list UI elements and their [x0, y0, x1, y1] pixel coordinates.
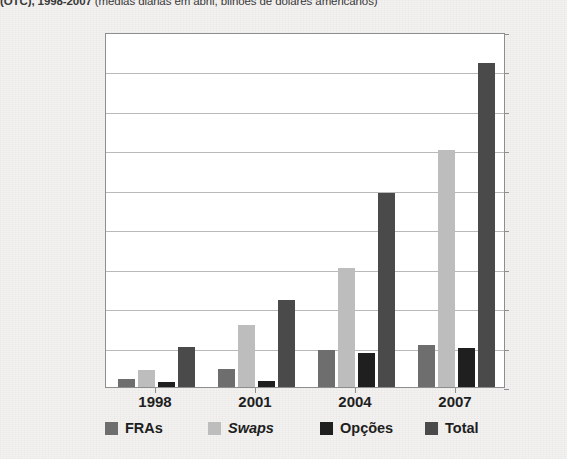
bar-total-2007	[478, 63, 495, 387]
y-axis-tick	[504, 152, 509, 153]
gridline	[106, 73, 504, 74]
chart-title-main: (OTC), 1998-2007	[0, 0, 92, 7]
legend-swatch-icon	[320, 422, 333, 435]
bar-total-1998	[178, 347, 195, 387]
legend-swatch-icon	[208, 422, 221, 435]
bar-swaps-2001	[238, 325, 255, 387]
legend-item-fras[interactable]: FRAs	[105, 420, 163, 436]
bar-fras-2004	[318, 350, 335, 387]
legend-label: Swaps	[228, 420, 274, 436]
bar-op-es-2007	[458, 348, 475, 387]
bar-fras-2007	[418, 345, 435, 387]
plot-area	[105, 33, 505, 388]
bar-swaps-1998	[138, 370, 155, 387]
legend-item-swaps[interactable]: Swaps	[208, 420, 274, 436]
chart-legend: FRAsSwapsOpçõesTotal	[105, 420, 505, 446]
bar-swaps-2004	[338, 268, 355, 387]
legend-swatch-icon	[425, 422, 438, 435]
y-axis-tick	[504, 192, 509, 193]
legend-label: Total	[445, 420, 479, 436]
legend-label: Opções	[340, 420, 393, 436]
bar-fras-1998	[118, 379, 135, 387]
x-axis-label-1998: 1998	[138, 393, 171, 410]
x-axis-label-2007: 2007	[438, 393, 471, 410]
bar-total-2001	[278, 300, 295, 387]
y-axis-tick	[504, 34, 509, 35]
y-axis-tick	[504, 310, 509, 311]
x-axis-label-2004: 2004	[338, 393, 371, 410]
legend-item-op-es[interactable]: Opções	[320, 420, 393, 436]
legend-swatch-icon	[105, 422, 118, 435]
scanned-page: (OTC), 1998-2007 (médias diárias em abri…	[0, 0, 567, 459]
y-axis-tick	[504, 271, 509, 272]
chart-title-subtitle: (médias diárias em abril, bilhões de dól…	[95, 0, 378, 7]
chart-title-strip: (OTC), 1998-2007 (médias diárias em abri…	[0, 0, 567, 11]
y-axis-tick	[504, 350, 509, 351]
y-axis-tick	[504, 113, 509, 114]
legend-item-total[interactable]: Total	[425, 420, 479, 436]
x-axis-label-2001: 2001	[238, 393, 271, 410]
bar-op-es-1998	[158, 382, 175, 387]
bar-chart: US$0US$200US$400US$600US$800US$1.000US$1…	[0, 16, 567, 459]
chart-title: (OTC), 1998-2007 (médias diárias em abri…	[0, 0, 567, 11]
bar-fras-2001	[218, 369, 235, 387]
gridline	[106, 113, 504, 114]
bar-swaps-2007	[438, 150, 455, 387]
bar-op-es-2001	[258, 381, 275, 387]
bar-op-es-2004	[358, 353, 375, 387]
bar-total-2004	[378, 193, 395, 387]
y-axis-tick	[504, 231, 509, 232]
y-axis-tick	[504, 389, 509, 390]
legend-label: FRAs	[125, 420, 163, 436]
y-axis-tick	[504, 73, 509, 74]
